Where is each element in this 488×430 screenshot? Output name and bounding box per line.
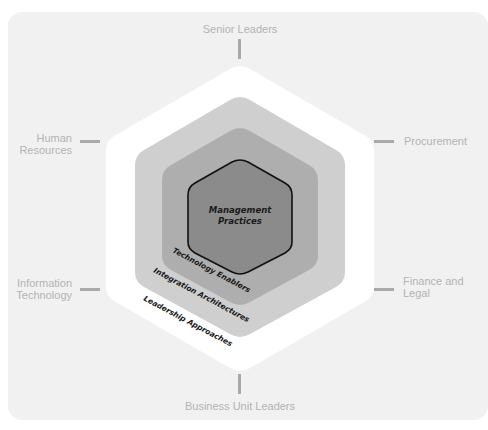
connector-lower-right bbox=[374, 288, 394, 291]
stakeholder-human-resources: Human Resources bbox=[2, 132, 72, 156]
core-label-line1: Management bbox=[209, 205, 273, 215]
connector-lower-left bbox=[80, 288, 100, 291]
stakeholder-information-technology-line2: Technology bbox=[2, 289, 72, 301]
stakeholder-business-unit-leaders: Business Unit Leaders bbox=[160, 400, 320, 412]
connector-upper-left bbox=[80, 140, 100, 143]
stakeholder-finance-and-legal: Finance and Legal bbox=[403, 275, 483, 299]
stakeholder-information-technology: Information Technology bbox=[2, 277, 72, 301]
stakeholder-human-resources-line2: Resources bbox=[2, 144, 72, 156]
connector-upper-right bbox=[374, 140, 394, 143]
core-label-line2: Practices bbox=[218, 216, 262, 226]
stakeholder-finance-and-legal-line1: Finance and bbox=[403, 275, 483, 287]
stakeholder-procurement: Procurement bbox=[404, 135, 484, 147]
connector-top bbox=[238, 39, 241, 59]
connector-bottom bbox=[238, 374, 241, 394]
stakeholder-human-resources-line1: Human bbox=[2, 132, 72, 144]
stakeholder-information-technology-line1: Information bbox=[2, 277, 72, 289]
stakeholder-senior-leaders: Senior Leaders bbox=[170, 23, 310, 35]
stakeholder-finance-and-legal-line2: Legal bbox=[403, 287, 483, 299]
